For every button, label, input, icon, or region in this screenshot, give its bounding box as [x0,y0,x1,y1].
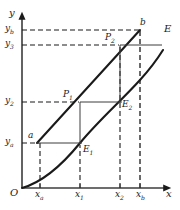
ytick-label-y-3: y3 [5,39,14,50]
curve-E [22,50,163,188]
x-axis-label: x [166,189,172,199]
point-label-b: b [140,18,146,27]
point-label-E1: E1 [83,145,93,156]
ytick-label-y-b: yb [5,24,14,35]
xtick-label-x-b: xb [136,190,145,201]
ytick-label-y-2: y2 [5,96,14,107]
point-label-E2: E2 [122,100,132,111]
ytick-label-y-a: ya [5,137,14,148]
math-figure: y x O yb y3 y2 ya xa x1 x2 xb a b E1 E2 … [0,0,180,210]
point-label-P1: P1 [63,90,73,101]
xtick-label-x-a: xa [35,190,44,201]
plot-canvas [0,0,180,210]
xtick-label-x-2: x2 [115,190,124,201]
point-label-P2: P2 [105,33,115,44]
point-label-a: a [28,131,33,140]
curve-label-E: E [164,24,171,34]
xtick-label-x-1: x1 [75,190,84,201]
origin-label: O [10,188,18,198]
line-ab [37,30,140,143]
y-axis-label: y [9,8,15,18]
